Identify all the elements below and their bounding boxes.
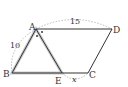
label-c: C: [89, 70, 96, 80]
label-b: B: [3, 69, 10, 79]
label-e: E: [55, 76, 62, 86]
measure-ec: x: [72, 75, 77, 84]
label-a: A: [28, 22, 36, 32]
measure-ad: 15: [70, 17, 80, 26]
parallelogram-abcd: [12, 29, 112, 73]
angle-mark-1: [41, 31, 43, 33]
geometry-diagram: A D B C E 15 10 x: [0, 0, 128, 87]
measure-ab: 10: [10, 41, 20, 50]
label-d: D: [113, 25, 120, 35]
angle-mark-2: [36, 35, 38, 37]
segment-ae: [36, 29, 62, 73]
